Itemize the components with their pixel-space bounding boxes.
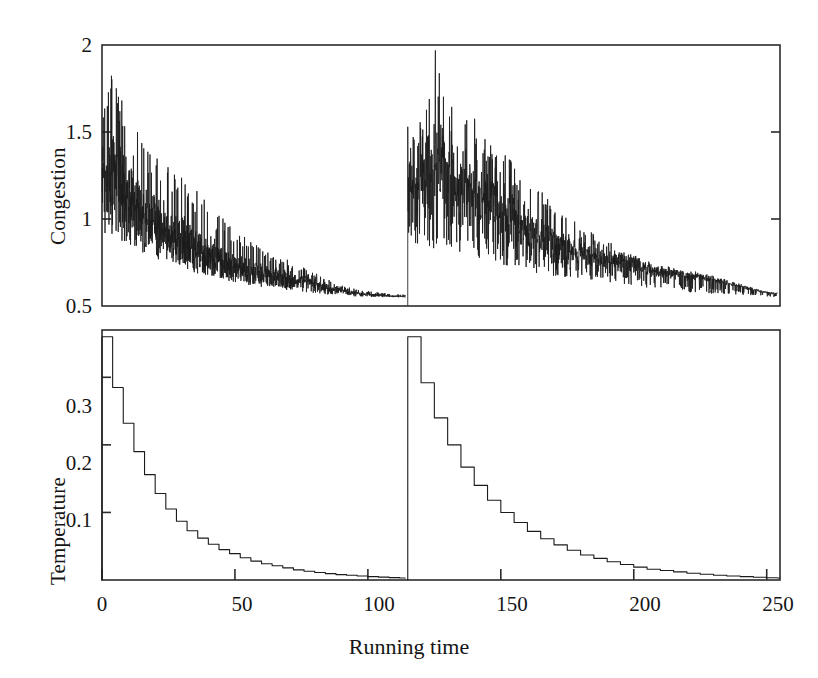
congestion-panel: Congestion 2 1.5 1 0.5	[0, 0, 818, 320]
temperature-series-run-2	[408, 337, 780, 580]
congestion-ytick-label-1-5: 1.5	[34, 120, 92, 145]
x-tick-label-0: 0	[82, 592, 122, 617]
temperature-ytick-label-0-2: 0.2	[30, 451, 92, 476]
x-tick-label-200: 200	[617, 592, 673, 617]
x-tick-label-100: 100	[351, 592, 407, 617]
x-tick-label-50: 50	[218, 592, 266, 617]
temperature-axes-frame	[102, 330, 780, 580]
temperature-panel: Temperature 0.3 0.2 0.1	[0, 320, 818, 620]
figure-container: Congestion 2 1.5 1 0.5 Temperature 0.3 0…	[0, 0, 818, 678]
congestion-ytick-label-2: 2	[44, 33, 92, 58]
x-tick-label-250: 250	[750, 592, 806, 617]
congestion-series-run-1	[102, 76, 405, 298]
congestion-series-run-2	[408, 50, 778, 305]
temperature-plot	[0, 320, 818, 620]
temperature-ytick-label-0-3: 0.3	[30, 394, 92, 419]
temperature-ytick-label-0-1: 0.1	[30, 508, 92, 533]
temperature-series-run-1	[102, 337, 405, 580]
x-axis-title: Running time	[0, 634, 818, 660]
congestion-ytick-label-0-5: 0.5	[34, 294, 92, 319]
x-tick-label-150: 150	[484, 592, 540, 617]
congestion-plot	[0, 0, 818, 320]
congestion-ytick-label-1: 1	[44, 207, 92, 232]
